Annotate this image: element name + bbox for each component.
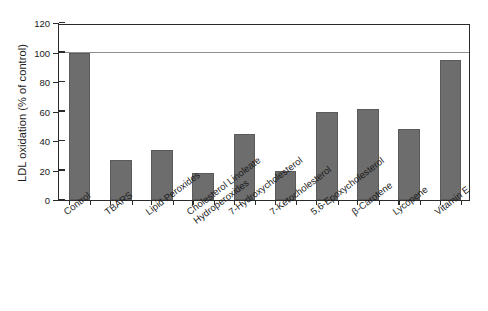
y-tick-mark [53, 23, 59, 24]
y-tick-mark [53, 171, 59, 172]
y-tick-mark [53, 200, 59, 201]
y-tick-mark-right [59, 169, 65, 170]
y-tick-mark [53, 53, 59, 54]
y-tick-label: 80 [39, 77, 50, 88]
y-tick-mark-right [59, 81, 65, 82]
x-tick-mark [132, 200, 133, 205]
y-tick-label: 60 [39, 106, 50, 117]
y-tick-mark-right [59, 51, 65, 52]
y-tick-mark-right [59, 140, 65, 141]
y-tick-mark-right [59, 22, 65, 23]
x-tick-mark [379, 200, 380, 205]
x-tick-mark [90, 200, 91, 205]
bar [440, 60, 461, 200]
bar [316, 112, 337, 201]
y-axis-title: LDL oxidation (% of control) [16, 18, 28, 208]
y-tick-mark [53, 112, 59, 113]
x-tick-mark [173, 200, 174, 205]
y-tick-label: 120 [34, 18, 50, 29]
y-tick-mark [53, 141, 59, 142]
y-tick-label: 100 [34, 47, 50, 58]
y-tick-label: 20 [39, 165, 50, 176]
x-tick-mark [338, 200, 339, 205]
y-tick-mark-right [59, 199, 65, 200]
bar [69, 53, 90, 201]
y-tick-mark-right [59, 110, 65, 111]
x-tick-mark [296, 200, 297, 205]
y-tick-mark [53, 82, 59, 83]
bar-chart-figure: LDL oxidation (% of control) 02040608010… [0, 0, 488, 311]
x-tick-mark [420, 200, 421, 205]
y-tick-label: 0 [45, 195, 50, 206]
bar [357, 109, 378, 200]
gridline-100 [59, 52, 469, 53]
y-tick-label: 40 [39, 136, 50, 147]
